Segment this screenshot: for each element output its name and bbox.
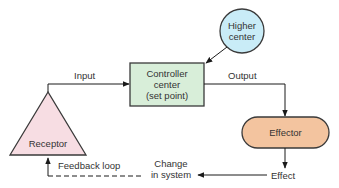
- controller-line3: (set point): [130, 90, 204, 101]
- receptor-label: Receptor: [10, 138, 86, 149]
- change-line1: Change: [146, 158, 196, 169]
- higher-center-line2: center: [220, 31, 264, 42]
- higher-center-arrow: [206, 47, 227, 63]
- higher-center-label: Higher center: [220, 20, 264, 42]
- input-arrow: [48, 84, 129, 92]
- effector-label: Effector: [242, 127, 329, 138]
- controller-line1: Controller: [130, 68, 204, 79]
- input-label: Input: [74, 70, 95, 81]
- controller-line2: center: [130, 79, 204, 90]
- effect-label: Effect: [271, 170, 295, 181]
- change-line2: in system: [146, 169, 196, 180]
- higher-center-line1: Higher: [220, 20, 264, 31]
- output-label: Output: [228, 70, 257, 81]
- homeostasis-diagram: Higher center Controller center (set poi…: [0, 0, 339, 188]
- output-arrow: [204, 84, 285, 116]
- change-in-system-label: Change in system: [146, 158, 196, 180]
- controller-label: Controller center (set point): [130, 68, 204, 101]
- feedback-loop-label: Feedback loop: [58, 160, 120, 171]
